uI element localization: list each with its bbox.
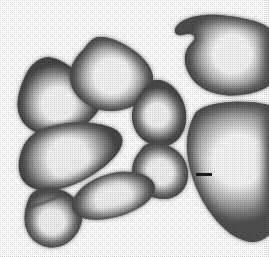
bone-cluster-illustration [0,0,269,257]
figure-root: Carpal bone cluster Grayscale halftone p… [0,0,269,257]
